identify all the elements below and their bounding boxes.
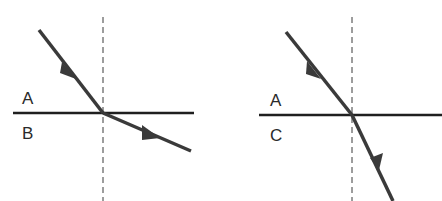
incident-ray-left [39, 30, 103, 113]
incident-ray-right [286, 32, 352, 115]
medium-label-upper-left: A [22, 89, 34, 108]
incident-arrow-icon-left [60, 62, 76, 79]
diagram-right: A C [259, 17, 442, 201]
refracted-arrow-icon-left [142, 125, 160, 140]
refraction-diagrams: A B A C [0, 0, 442, 201]
diagram-left: A B [13, 17, 194, 201]
incident-arrow-icon-right [306, 61, 321, 79]
medium-label-lower-right: C [270, 126, 282, 145]
medium-label-upper-right: A [270, 91, 282, 110]
medium-label-lower-left: B [22, 124, 33, 143]
